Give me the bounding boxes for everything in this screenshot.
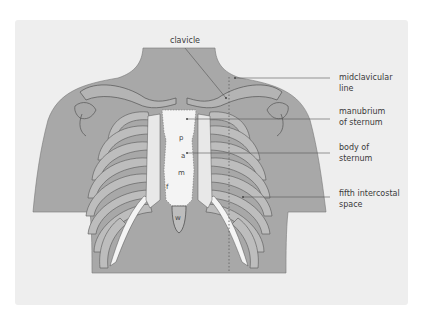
label-body-of-sternum: body of sternum (339, 143, 372, 164)
sternum-letter-f: f (166, 183, 168, 191)
label-fifth-intercostal-space: fifth intercostal space (339, 189, 400, 210)
label-manubrium: manubrium of sternum (339, 107, 385, 128)
sternum-letter-p: p (179, 134, 183, 142)
sternum (162, 110, 196, 206)
marker-fifth-intercostal (242, 196, 244, 198)
sternum-letter-m: m (178, 169, 185, 177)
marker-clavicle (225, 97, 227, 99)
marker-midclavicular (234, 77, 236, 79)
sternum-letter-w: w (175, 214, 181, 222)
marker-body-sternum (186, 152, 188, 154)
label-midclavicular-line: midclavicular line (339, 73, 392, 94)
label-clavicle: clavicle (170, 36, 200, 47)
sternum-letter-a: a (181, 152, 185, 160)
marker-manubrium (186, 118, 188, 120)
